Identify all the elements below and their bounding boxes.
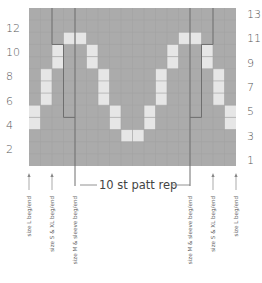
contrast-cell bbox=[179, 32, 191, 44]
contrast-cell bbox=[225, 117, 237, 129]
knitting-chart: 12108642 131197531 size L beg/endsize S … bbox=[0, 0, 262, 283]
row-label-right: 3 bbox=[247, 130, 254, 143]
left-row-labels: 12108642 bbox=[6, 22, 20, 157]
contrast-cell bbox=[41, 69, 53, 81]
row-label-right: 11 bbox=[247, 32, 261, 45]
contrast-cell bbox=[156, 81, 168, 93]
contrast-cell bbox=[133, 130, 145, 142]
size-marker-label: size L beg/end bbox=[233, 196, 240, 237]
marker-arrowhead-icon bbox=[27, 173, 30, 177]
contrast-cell bbox=[167, 44, 179, 56]
row-label-right: 5 bbox=[247, 105, 254, 118]
contrast-cell bbox=[87, 57, 99, 69]
contrast-cell bbox=[213, 81, 225, 93]
contrast-cell bbox=[167, 57, 179, 69]
contrast-cell bbox=[225, 105, 237, 117]
row-label-right: 9 bbox=[247, 57, 254, 70]
contrast-cell bbox=[121, 130, 133, 142]
pattern-repeat-annotation: 10 st patt rep bbox=[80, 178, 190, 192]
contrast-cell bbox=[41, 93, 53, 105]
contrast-cell bbox=[156, 93, 168, 105]
contrast-cell bbox=[29, 105, 41, 117]
contrast-cell bbox=[98, 93, 110, 105]
contrast-cell bbox=[156, 69, 168, 81]
contrast-cell bbox=[98, 81, 110, 93]
size-marker-label: size S & XL beg/end bbox=[49, 196, 56, 252]
contrast-cell bbox=[144, 105, 156, 117]
rep-label: 10 st patt rep bbox=[99, 178, 177, 192]
contrast-cell bbox=[190, 32, 202, 44]
contrast-cell bbox=[213, 69, 225, 81]
row-label-left: 10 bbox=[6, 46, 20, 59]
row-label-right: 7 bbox=[247, 81, 254, 94]
contrast-cell bbox=[110, 105, 122, 117]
contrast-cell bbox=[64, 32, 76, 44]
row-label-right: 1 bbox=[247, 154, 254, 167]
contrast-cell bbox=[52, 44, 64, 56]
contrast-cell bbox=[144, 117, 156, 129]
contrast-cell bbox=[202, 57, 214, 69]
contrast-cell bbox=[52, 57, 64, 69]
marker-arrowhead-icon bbox=[234, 173, 237, 177]
row-label-right: 13 bbox=[247, 8, 261, 21]
row-label-left: 8 bbox=[6, 70, 13, 83]
contrast-cell bbox=[110, 117, 122, 129]
row-label-left: 4 bbox=[6, 119, 13, 132]
contrast-cell bbox=[98, 69, 110, 81]
size-marker-label: size S & XL beg/end bbox=[210, 196, 217, 252]
row-label-left: 6 bbox=[6, 95, 13, 108]
size-marker-label: size M & sleeve beg/end bbox=[187, 196, 194, 265]
contrast-cell bbox=[29, 117, 41, 129]
contrast-cell bbox=[202, 44, 214, 56]
size-marker-label: size M & sleeve beg/end bbox=[72, 196, 79, 265]
contrast-cell bbox=[41, 81, 53, 93]
right-row-labels: 131197531 bbox=[247, 8, 261, 167]
contrast-cell bbox=[213, 93, 225, 105]
marker-arrowhead-icon bbox=[50, 173, 53, 177]
contrast-cell bbox=[75, 32, 87, 44]
row-label-left: 2 bbox=[6, 143, 13, 156]
contrast-cell bbox=[87, 44, 99, 56]
marker-arrowhead-icon bbox=[211, 173, 214, 177]
size-marker-label: size L beg/end bbox=[26, 196, 33, 237]
row-label-left: 12 bbox=[6, 22, 20, 35]
